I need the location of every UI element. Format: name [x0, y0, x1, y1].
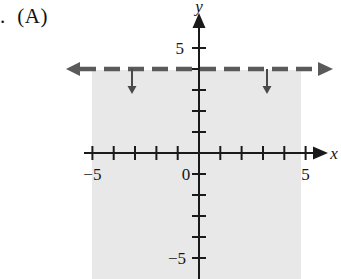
x-axis-arrowhead — [313, 147, 328, 160]
x-tick-label-neg5: −5 — [83, 165, 101, 184]
boundary-arrowhead-right — [318, 62, 333, 76]
coordinate-graph: −5 0 5 5 −5 y x — [0, 0, 341, 279]
boundary-arrowhead-left — [66, 62, 80, 76]
y-axis-label: y — [193, 0, 203, 16]
x-axis-label: x — [329, 144, 338, 163]
figure-canvas: . (A) — [0, 0, 341, 279]
y-tick-label-neg5: −5 — [168, 249, 186, 268]
x-tick-label-zero: 0 — [182, 165, 191, 184]
y-tick-label-5: 5 — [176, 39, 185, 58]
x-tick-label-5: 5 — [301, 165, 310, 184]
